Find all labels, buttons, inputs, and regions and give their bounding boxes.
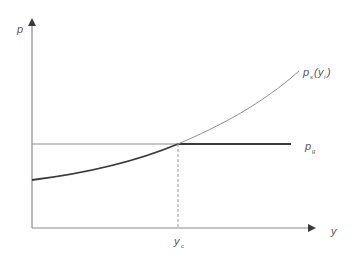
diagram-canvas: p y p s ( y i ) p g y c — [0, 0, 356, 259]
svg-text:y: y — [173, 235, 181, 247]
svg-text:i: i — [324, 74, 326, 80]
supply-curve-thin-segment — [178, 71, 299, 144]
svg-text:p: p — [302, 66, 309, 78]
x-axis-label: y — [330, 225, 338, 237]
price-line-label: p g — [304, 140, 316, 154]
yc-label: y c — [173, 235, 184, 249]
svg-text:p: p — [304, 140, 311, 152]
svg-text:g: g — [312, 148, 316, 154]
svg-text:s: s — [310, 74, 313, 80]
y-axis-label: p — [16, 23, 23, 35]
svg-text:): ) — [325, 66, 331, 78]
svg-text:c: c — [181, 243, 184, 249]
supply-curve-thick-segment — [32, 144, 178, 180]
supply-curve-label: p s ( y i ) — [302, 66, 331, 80]
